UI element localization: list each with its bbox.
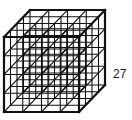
cube-count-label: 27 bbox=[113, 67, 126, 81]
grid-cube-diagram bbox=[0, 0, 132, 120]
